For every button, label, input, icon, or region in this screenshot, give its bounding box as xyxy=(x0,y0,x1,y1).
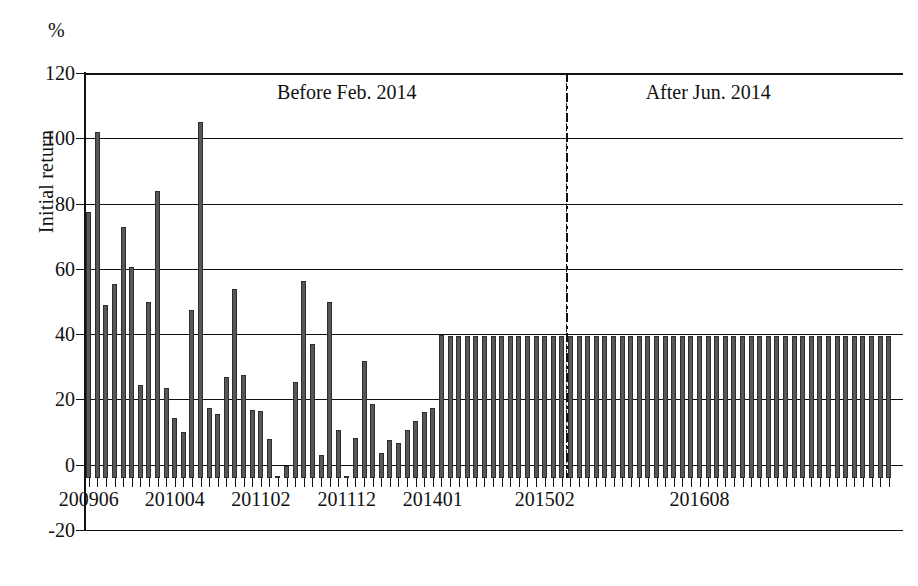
x-tick xyxy=(820,478,821,487)
bar xyxy=(448,336,453,478)
x-tick xyxy=(639,478,640,487)
bar xyxy=(774,336,779,478)
bar xyxy=(189,310,194,478)
x-tick xyxy=(743,478,744,487)
x-tick-label-201401: 201401 xyxy=(403,489,463,509)
bar xyxy=(396,443,401,478)
bar xyxy=(473,336,478,478)
bar xyxy=(766,336,771,478)
bar xyxy=(232,289,237,478)
x-tick xyxy=(786,478,787,487)
x-tick xyxy=(545,478,546,487)
bar xyxy=(86,212,91,478)
bar xyxy=(663,336,668,478)
x-tick xyxy=(553,478,554,487)
bar xyxy=(155,191,160,478)
bar xyxy=(121,227,126,478)
x-tick xyxy=(510,478,511,487)
x-tick xyxy=(106,478,107,487)
x-tick xyxy=(218,478,219,487)
x-tick xyxy=(398,478,399,487)
x-tick xyxy=(312,478,313,487)
y-tick-0 xyxy=(76,465,84,466)
x-tick xyxy=(364,478,365,487)
x-tick xyxy=(355,478,356,487)
x-tick xyxy=(872,478,873,487)
bar xyxy=(112,284,117,478)
x-tick xyxy=(269,478,270,487)
x-tick xyxy=(863,478,864,487)
x-tick xyxy=(527,478,528,487)
regulation-divider-line xyxy=(566,73,567,478)
x-tick xyxy=(519,478,520,487)
bar xyxy=(172,418,177,478)
bar xyxy=(757,336,762,478)
bar xyxy=(706,336,711,478)
bar xyxy=(508,336,513,478)
x-tick xyxy=(614,478,615,487)
x-tick xyxy=(450,478,451,487)
bar xyxy=(181,432,186,478)
y-tick-120 xyxy=(76,73,84,74)
chart-figure: % Initial return -20020406080100120 2009… xyxy=(0,0,918,586)
x-tick xyxy=(252,478,253,487)
x-tick xyxy=(158,478,159,487)
x-tick xyxy=(244,478,245,487)
x-tick xyxy=(846,478,847,487)
bar xyxy=(422,412,427,478)
y-tick-label-120: 120 xyxy=(45,63,75,83)
x-tick xyxy=(183,478,184,487)
bar xyxy=(405,430,410,478)
x-tick xyxy=(287,478,288,487)
y-tick--20 xyxy=(76,530,84,531)
x-tick xyxy=(347,478,348,487)
x-tick xyxy=(794,478,795,487)
x-axis-tick-labels: 2009062010042011022011122014012015022016… xyxy=(0,489,918,515)
bar xyxy=(284,466,289,478)
bar xyxy=(362,361,367,478)
bar xyxy=(542,336,547,478)
x-tick-label-201112: 201112 xyxy=(318,489,377,509)
bar xyxy=(164,388,169,478)
bar xyxy=(370,404,375,478)
x-axis-ticks xyxy=(84,478,903,488)
x-tick xyxy=(175,478,176,487)
bar xyxy=(723,336,728,478)
bar xyxy=(594,336,599,478)
x-tick xyxy=(226,478,227,487)
bar xyxy=(637,336,642,478)
x-tick-label-200906: 200906 xyxy=(59,489,119,509)
y-tick-label-100: 100 xyxy=(45,128,75,148)
x-tick xyxy=(123,478,124,487)
x-tick xyxy=(381,478,382,487)
x-tick xyxy=(89,478,90,487)
bar xyxy=(413,421,418,478)
x-tick xyxy=(484,478,485,487)
x-tick xyxy=(330,478,331,487)
bar xyxy=(809,336,814,478)
y-tick-label-0: 0 xyxy=(65,455,75,475)
x-tick xyxy=(777,478,778,487)
y-tick-label-20: 20 xyxy=(55,389,75,409)
bar xyxy=(577,336,582,478)
bar xyxy=(319,455,324,478)
bar xyxy=(379,453,384,478)
x-tick xyxy=(665,478,666,487)
x-tick xyxy=(373,478,374,487)
bar xyxy=(534,336,539,478)
x-tick xyxy=(768,478,769,487)
bar xyxy=(602,336,607,478)
x-tick xyxy=(132,478,133,487)
x-tick xyxy=(140,478,141,487)
bar xyxy=(353,438,358,478)
bar xyxy=(783,336,788,478)
x-tick xyxy=(605,478,606,487)
x-tick xyxy=(192,478,193,487)
bar xyxy=(250,410,255,478)
x-tick xyxy=(502,478,503,487)
bar xyxy=(800,336,805,478)
x-tick xyxy=(648,478,649,487)
x-tick xyxy=(837,478,838,487)
bar xyxy=(293,382,298,478)
x-tick xyxy=(579,478,580,487)
